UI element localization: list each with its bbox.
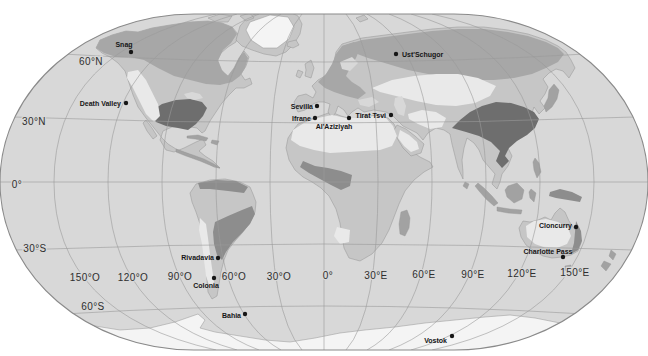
station-dot — [561, 255, 565, 259]
station-dot — [394, 52, 398, 56]
longitude-label: 120°E — [507, 268, 536, 279]
longitude-label: 150°E — [560, 267, 589, 278]
station-label: Ifrane — [292, 115, 311, 122]
longitude-label: 90°O — [168, 271, 193, 282]
station-dot — [216, 256, 220, 260]
station-dot — [313, 116, 317, 120]
longitude-label: 90°E — [461, 269, 484, 280]
longitude-label: 60°E — [412, 269, 435, 280]
latitude-label: 60°N — [79, 56, 103, 67]
latitude-label: 60°S — [81, 301, 104, 312]
station-dot — [243, 312, 247, 316]
world-map: 60°N30°N0°30°S60°S150°O120°O90°O60°O30°O… — [0, 0, 648, 356]
station-dot — [124, 101, 128, 105]
latitude-label: 30°N — [22, 116, 46, 127]
station-label: Snag — [115, 41, 132, 49]
scanned-world-map-page: 60°N30°N0°30°S60°S150°O120°O90°O60°O30°O… — [0, 0, 648, 356]
station-label: Al'Aziziyah — [316, 123, 353, 131]
station-label: Tirat Tsvi — [356, 112, 387, 119]
longitude-label: 30°E — [364, 270, 387, 281]
latitude-label: 0° — [12, 179, 22, 190]
station-dot — [574, 225, 578, 229]
station-label: Sevilla — [291, 103, 313, 110]
longitude-label: 60°O — [222, 271, 247, 282]
longitude-label: 120°O — [118, 272, 148, 283]
longitude-label: 30°O — [267, 271, 292, 282]
station-dot — [347, 116, 351, 120]
station-label: Ust'Schugor — [402, 51, 444, 59]
station-dot — [212, 276, 216, 280]
station-label: Bahia — [222, 312, 241, 319]
station-dot — [129, 50, 133, 54]
latitude-label: 30°S — [23, 243, 46, 254]
station-label: Cloncurry — [539, 222, 572, 230]
station-label: Death Valley — [80, 100, 121, 108]
station-label: Vostok — [424, 337, 447, 344]
station-dot — [450, 334, 454, 338]
station-dot — [389, 113, 393, 117]
station-label: Rivadavia — [181, 254, 214, 261]
station-dot — [315, 104, 319, 108]
station-label: Colonia — [193, 282, 219, 289]
longitude-label: 0° — [323, 270, 333, 281]
station-label: Charlotte Pass — [523, 248, 572, 255]
longitude-label: 150°O — [70, 272, 100, 283]
